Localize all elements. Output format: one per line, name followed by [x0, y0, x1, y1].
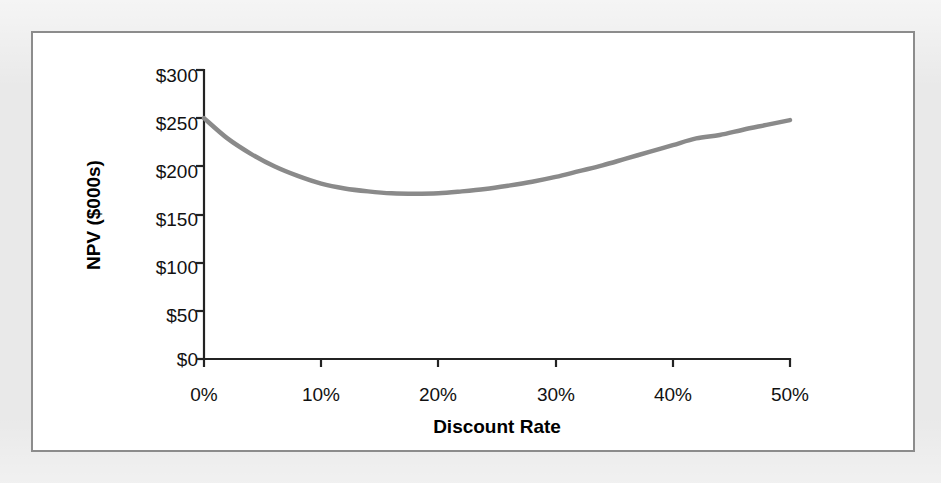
- x-axis-title: Discount Rate: [433, 416, 561, 437]
- chart-panel: $300 $250 $200 $150 $100 $50 $0: [31, 31, 915, 452]
- npv-vs-discount-rate-chart: $300 $250 $200 $150 $100 $50 $0: [33, 33, 913, 450]
- y-tick-label-0: $0: [177, 349, 198, 370]
- x-tick-label-50: 50%: [771, 384, 809, 405]
- y-tick-label-150: $150: [156, 209, 198, 230]
- x-tick-label-0: 0%: [190, 384, 218, 405]
- y-tick-label-300: $300: [156, 65, 198, 86]
- y-tick-label-250: $250: [156, 113, 198, 134]
- y-tick-label-50: $50: [166, 305, 198, 326]
- x-tick-label-30: 30%: [537, 384, 575, 405]
- x-tick-label-20: 20%: [419, 384, 457, 405]
- y-axis-title: NPV ($000s): [83, 160, 104, 270]
- x-tick-label-10: 10%: [302, 384, 340, 405]
- x-tick-label-40: 40%: [654, 384, 692, 405]
- npv-curve: [204, 118, 790, 194]
- figure-page: $300 $250 $200 $150 $100 $50 $0: [0, 0, 941, 483]
- y-tick-label-200: $200: [156, 161, 198, 182]
- y-tick-label-100: $100: [156, 257, 198, 278]
